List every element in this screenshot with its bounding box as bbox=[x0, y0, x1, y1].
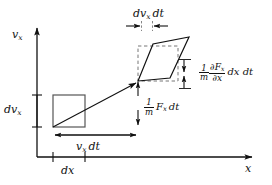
y-axis-label: vx bbox=[12, 29, 22, 41]
vx-dt-label: vxdt bbox=[76, 141, 100, 153]
phase-space-diagram: vx x dvx dx vxdt dvxdt 1mFxdt 1m∂Fx∂xdx … bbox=[0, 0, 272, 185]
diagram-canvas bbox=[0, 0, 272, 185]
x-axis-label: x bbox=[245, 163, 251, 174]
dx-label: dx bbox=[61, 165, 74, 176]
gradient-formula: 1m∂Fx∂xdx dt bbox=[199, 63, 253, 83]
reference-box bbox=[138, 46, 178, 81]
initial-phase-space-cell bbox=[53, 95, 85, 127]
force-formula: 1mFxdt bbox=[144, 98, 179, 116]
one-over-m-fraction: 1m bbox=[199, 64, 209, 82]
trajectory-arrow bbox=[53, 83, 136, 127]
evolved-phase-space-cell bbox=[138, 37, 189, 81]
dvx-dt-measure bbox=[126, 21, 168, 31]
dvx-dt-label: dvxdt bbox=[133, 8, 164, 20]
gradient-measure bbox=[179, 60, 191, 89]
partial-derivative-fraction: ∂Fx∂x bbox=[209, 63, 225, 83]
one-over-m-fraction: 1m bbox=[144, 98, 154, 116]
dvx-label: dvx bbox=[4, 104, 21, 116]
